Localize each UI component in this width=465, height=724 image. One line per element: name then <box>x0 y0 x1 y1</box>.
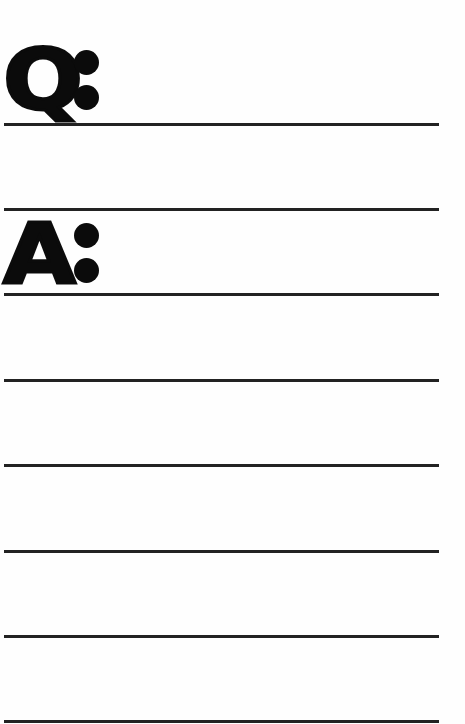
worksheet-page: Q A <box>0 0 465 724</box>
answer-line-1 <box>4 293 439 296</box>
question-label: Q <box>3 38 74 114</box>
answer-line-4 <box>4 550 439 553</box>
answer-line-6 <box>4 720 439 723</box>
question-colon <box>74 38 100 114</box>
colon-dot <box>74 223 99 248</box>
colon-dot <box>74 50 99 75</box>
question-letter: Q <box>3 38 83 122</box>
answer-line-5 <box>4 635 439 638</box>
answer-line-2 <box>4 379 439 382</box>
question-line-1 <box>4 123 439 126</box>
colon-dot <box>74 258 99 283</box>
answer-letter: A <box>3 212 76 296</box>
answer-label: A <box>3 212 68 288</box>
colon-dot <box>74 85 99 110</box>
answer-line-3 <box>4 464 439 467</box>
answer-colon <box>74 212 100 288</box>
